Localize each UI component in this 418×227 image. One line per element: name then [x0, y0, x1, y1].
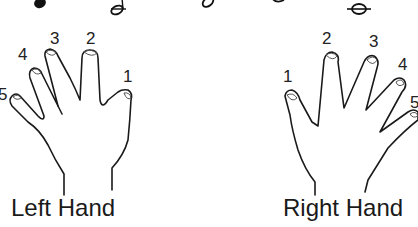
right-hand-label: Right Hand [283, 194, 403, 221]
finger-number-2: 2 [86, 29, 95, 48]
left-hand: 5 4 3 2 1 Left Hand [0, 29, 132, 221]
half-note-icon [110, 0, 126, 16]
music-notes [32, 0, 371, 16]
finger-number-4: 4 [18, 45, 27, 64]
half-note-icon [201, 0, 215, 9]
finger-number-1: 1 [123, 67, 132, 86]
finger-number-3: 3 [50, 29, 59, 48]
filled-note-icon [32, 0, 47, 10]
finger-number-5: 5 [410, 93, 418, 112]
finger-number-3: 3 [369, 32, 378, 51]
finger-number-4: 4 [398, 55, 407, 74]
left-hand-outline [10, 49, 132, 195]
finger-diagram: 5 4 3 2 1 Left Hand 1 2 3 4 5 Right Hand [0, 0, 418, 227]
half-note-icon [272, 0, 284, 2]
finger-number-2: 2 [322, 29, 331, 48]
left-hand-label: Left Hand [11, 194, 115, 221]
finger-number-1: 1 [283, 67, 292, 86]
whole-note-icon [347, 4, 371, 14]
right-hand: 1 2 3 4 5 Right Hand [283, 29, 418, 221]
finger-number-5: 5 [0, 85, 7, 104]
